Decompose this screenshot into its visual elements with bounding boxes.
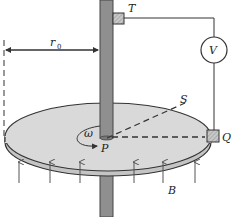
contact-t-label: T [128,2,137,15]
radius-subscript: 0 [57,43,61,51]
center-label: P [100,142,109,155]
contact-q: Q [207,130,231,144]
contact-t: T [113,2,137,24]
axle-upper [100,0,113,140]
field-label: B [167,184,176,197]
contact-q-label: Q [222,131,231,144]
omega-label: ω [84,127,93,140]
voltmeter-label: V [209,44,218,57]
rim-point-label: S [180,93,188,106]
radius-label: r [50,36,56,49]
faraday-disk-diagram: r 0 T V Q S P ω B [0,0,232,217]
